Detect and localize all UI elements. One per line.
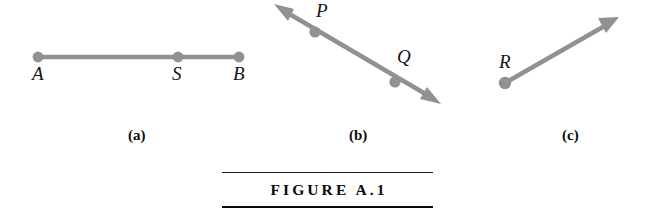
point-dot-q bbox=[389, 76, 400, 87]
point-label-r: R bbox=[499, 52, 511, 71]
arrowhead-lower-right bbox=[420, 87, 441, 104]
point-dot-p bbox=[309, 26, 320, 37]
point-dot-s bbox=[173, 52, 184, 63]
point-dot-b bbox=[234, 52, 245, 63]
figure-rule-bottom bbox=[222, 206, 433, 208]
point-label-p: P bbox=[316, 1, 328, 20]
point-label-s: S bbox=[172, 64, 182, 83]
figure-title: FIGURE A.1 bbox=[222, 173, 433, 206]
point-label-a: A bbox=[32, 64, 44, 83]
figure-a-1: A S B P Q R (a) (b) (c) FIGURE A.1 bbox=[0, 0, 649, 220]
point-dot-r bbox=[499, 77, 511, 89]
panel-a-segment bbox=[33, 52, 245, 63]
point-dot-a bbox=[33, 52, 44, 63]
panel-caption-a: (a) bbox=[128, 128, 146, 143]
panel-b-line bbox=[274, 4, 441, 104]
arrowhead-ray-r bbox=[598, 17, 619, 33]
panel-c-ray bbox=[499, 17, 619, 89]
figure-title-block: FIGURE A.1 bbox=[222, 172, 433, 208]
ray-r-shaft bbox=[505, 24, 608, 83]
panel-caption-c: (c) bbox=[562, 128, 579, 143]
arrowhead-upper-left bbox=[274, 4, 294, 21]
panel-caption-b: (b) bbox=[349, 128, 367, 143]
point-label-b: B bbox=[233, 64, 245, 83]
point-label-q: Q bbox=[397, 47, 411, 66]
